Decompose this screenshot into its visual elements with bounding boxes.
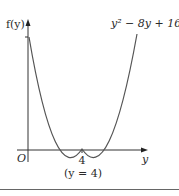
curve-label: y² − 8y + 16 xyxy=(110,17,179,30)
vertex-note: (y = 4) xyxy=(64,167,102,180)
x-axis-label: y xyxy=(141,153,149,166)
origin-label: O xyxy=(17,152,26,165)
parabola-diagram: f(y) y² − 8y + 16 O y 4 (y = 4) xyxy=(0,0,179,196)
x-axis-arrow-icon xyxy=(141,148,148,153)
y-axis-arrow-icon xyxy=(26,19,31,26)
vertex-tick-label: 4 xyxy=(79,154,86,167)
parabola-curve xyxy=(29,34,137,158)
y-axis-label: f(y) xyxy=(6,18,25,31)
